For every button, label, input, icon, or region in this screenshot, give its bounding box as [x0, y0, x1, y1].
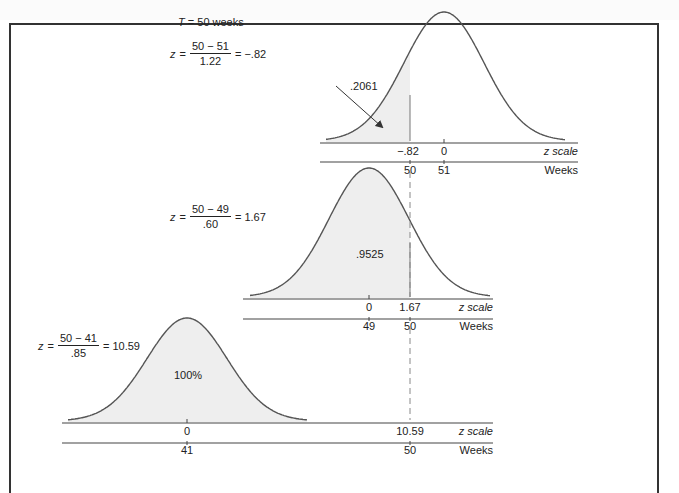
bottom-z-tick-2: 10.59 — [396, 425, 424, 437]
middle-week-axis-label: Weeks — [460, 320, 493, 332]
top-z-tick-1: −.82 — [397, 145, 419, 157]
top-z-axis-label: z scale — [544, 145, 578, 157]
top-area-label: .2061 — [350, 80, 378, 92]
middle-z-axis-label: z scale — [459, 301, 493, 313]
middle-week-tick-1: 49 — [363, 320, 375, 332]
bottom-week-tick-1: 41 — [181, 444, 193, 456]
top-z-tick-2: 0 — [441, 145, 447, 157]
bottom-equation: z= 50 − 41.85 = 10.59 — [38, 332, 140, 359]
top-week-axis-label: Weeks — [545, 164, 578, 176]
middle-normal-curve — [243, 168, 493, 321]
middle-area-label: .9525 — [356, 248, 384, 260]
top-week-tick-1: 50 — [404, 164, 416, 176]
bottom-week-axis-label: Weeks — [460, 444, 493, 456]
bottom-z-axis-label: z scale — [459, 425, 493, 437]
title-label: T = 50 weeks — [178, 16, 244, 28]
middle-z-tick-2: 1.67 — [399, 301, 420, 313]
arrow-icon — [336, 86, 382, 127]
middle-z-tick-1: 0 — [366, 301, 372, 313]
top-equation: z= 50 − 511.22 = −.82 — [170, 40, 266, 67]
middle-week-tick-2: 50 — [404, 320, 416, 332]
middle-equation: z= 50 − 49.60 = 1.67 — [170, 203, 266, 230]
top-week-tick-2: 51 — [438, 164, 450, 176]
bottom-z-tick-1: 0 — [184, 425, 190, 437]
bottom-area-label: 100% — [174, 369, 202, 381]
bottom-week-tick-2: 50 — [404, 444, 416, 456]
